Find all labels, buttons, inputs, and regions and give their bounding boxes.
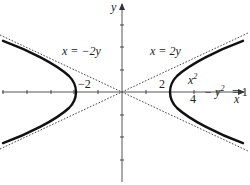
y-axis-label: y (110, 0, 117, 14)
equation-rhs: = 1 (232, 85, 248, 99)
vertex-label-left: −2 (78, 77, 91, 91)
equation-numerator: x2 (187, 72, 197, 87)
hyperbola-figure: y x x = −2y x = 2y −2 2 x2 4 − y2 = 1 (0, 0, 250, 185)
equation-denominator: 4 (190, 92, 196, 106)
asymptote-label-positive: x = 2y (149, 44, 181, 58)
asymptote-label-negative: x = −2y (61, 44, 102, 58)
vertex-label-right: 2 (159, 77, 165, 91)
equation-minus-term: − y2 (204, 84, 224, 99)
